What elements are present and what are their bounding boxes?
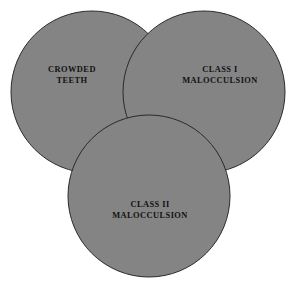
label-class-i-malocculsion: CLASS I MALOCCULSION: [165, 64, 275, 86]
label-crowded-teeth: CROWDED TEETH: [27, 64, 117, 86]
venn-diagram: CROWDED TEETH CLASS I MALOCCULSION CLASS…: [0, 0, 296, 298]
venn-circles-graphic: [0, 0, 296, 298]
label-crowded-teeth-line1: CROWDED: [27, 64, 117, 75]
label-class-i-line1: CLASS I: [165, 64, 275, 75]
label-class-ii-line1: CLASS II: [95, 199, 205, 210]
label-crowded-teeth-line2: TEETH: [27, 75, 117, 86]
circle-class-ii-malocculsion: [68, 115, 230, 277]
label-class-i-line2: MALOCCULSION: [165, 75, 275, 86]
label-class-ii-line2: MALOCCULSION: [95, 210, 205, 221]
label-class-ii-malocculsion: CLASS II MALOCCULSION: [95, 199, 205, 221]
